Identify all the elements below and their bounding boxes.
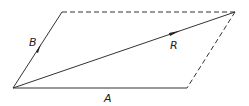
arrowhead-B-icon	[36, 44, 41, 53]
parallelogram-diagram: B A R	[0, 0, 249, 106]
arrowhead-R-icon	[169, 31, 180, 36]
label-A: A	[103, 92, 112, 105]
label-B: B	[29, 36, 37, 49]
label-R: R	[170, 39, 178, 52]
right-dashed-edge	[187, 12, 235, 88]
vector-R	[13, 12, 235, 88]
